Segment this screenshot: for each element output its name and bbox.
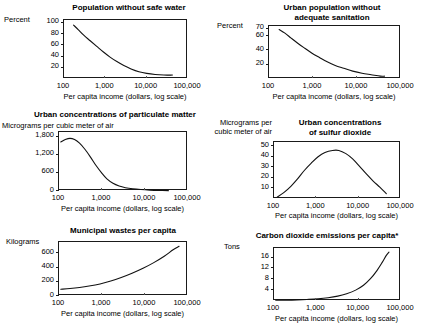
y-tick-mark [271, 177, 274, 178]
x-tick-mark [101, 188, 102, 190]
y-tick-label: 60 [226, 31, 264, 39]
chart-panel-carbon-dioxide-emissions-per-capita: Carbon dioxide emissions per capita* Ton… [213, 222, 427, 331]
chart-title: Population without safe water [49, 3, 209, 13]
x-tick-label: 100,000 [162, 82, 212, 90]
y-tick-mark [61, 22, 64, 23]
y-tick-label: 0 [16, 291, 54, 299]
x-axis-title: Per capita income (dollars, log scale) [273, 314, 400, 323]
y-tick-mark [271, 187, 274, 188]
y-tick-label: 16 [231, 252, 269, 260]
x-tick-label: 100,000 [375, 202, 425, 210]
y-tick-mark [56, 281, 59, 282]
y-tick-label: 100 [21, 17, 59, 25]
x-tick-mark [144, 293, 145, 295]
y-tick-label: 1,200 [16, 149, 54, 157]
y-tick-label: 70 [226, 23, 264, 31]
y-tick-mark [56, 172, 59, 173]
y-tick-mark [56, 136, 59, 137]
x-axis-title: Per capita income (dollars, log scale) [63, 92, 187, 101]
plot-area [63, 19, 187, 78]
curve-svg [274, 142, 401, 199]
y-tick-label: 8 [231, 274, 269, 282]
x-tick-label: 10,000 [331, 82, 381, 90]
chart-title: Urban concentrations of sulfur dioxide [275, 118, 405, 138]
y-tick-mark [271, 257, 274, 258]
plot-area [273, 141, 400, 198]
chart-title-line-1: Urban concentrations [299, 118, 382, 127]
y-tick-label: 12 [231, 263, 269, 271]
data-curve [74, 25, 173, 75]
chart-panel-municipal-wastes-per-capita: Municipal wastes per capita Kilograms 02… [0, 222, 214, 331]
y-tick-mark [271, 278, 274, 279]
y-tick-mark [61, 67, 64, 68]
y-tick-mark [61, 33, 64, 34]
x-tick-mark [144, 188, 145, 190]
x-tick-mark [315, 298, 316, 300]
y-axis-unit-label: Tons [224, 242, 240, 251]
data-curve [277, 150, 386, 197]
chart-title: Municipal wastes per capita [48, 226, 198, 236]
y-tick-label: 600 [16, 248, 54, 256]
y-axis-unit-line-2: cubic meter of air [214, 127, 272, 136]
x-tick-mark [315, 196, 316, 198]
y-tick-label: 400 [16, 262, 54, 270]
chart-panel-urban-concentrations-of-particulate-matter: Urban concentrations of particulate matt… [0, 110, 214, 222]
plot-area [58, 241, 187, 295]
y-tick-mark [266, 64, 269, 65]
curve-svg [269, 26, 401, 79]
y-tick-mark [271, 145, 274, 146]
y-tick-label: 60 [21, 40, 59, 48]
y-tick-label: 4 [231, 285, 269, 293]
y-tick-mark [271, 156, 274, 157]
x-tick-mark [101, 293, 102, 295]
x-tick-mark [358, 196, 359, 198]
y-tick-label: 40 [21, 51, 59, 59]
chart-title-line-2: adequate sanitation [294, 13, 369, 22]
y-tick-label: 40 [226, 45, 264, 53]
chart-title: Urban concentrations of particulate matt… [20, 110, 210, 120]
chart-title: Carbon dioxide emissions per capita* [237, 231, 417, 241]
x-axis-title: Per capita income (dollars, log scale) [58, 204, 187, 213]
y-tick-label: 40 [231, 151, 269, 159]
y-tick-label: 20 [231, 172, 269, 180]
x-axis-title: Per capita income (dollars, log scale) [268, 92, 400, 101]
x-tick-label: 100,000 [162, 299, 212, 307]
curve-svg [64, 20, 188, 79]
x-axis-title: Per capita income (dollars, log scale) [273, 211, 400, 220]
x-tick-mark [358, 298, 359, 300]
y-axis-unit-label: Micrograms per cubic meter of air [2, 121, 114, 130]
y-tick-label: 600 [16, 167, 54, 175]
x-tick-label: 100,000 [375, 304, 425, 312]
plot-area [58, 131, 187, 190]
y-tick-label: 30 [231, 162, 269, 170]
curve-svg [59, 242, 188, 296]
chart-panel-population-without-safe-water: Population without safe water Percent 20… [0, 0, 214, 110]
data-curve [61, 246, 179, 289]
y-tick-mark [56, 252, 59, 253]
x-tick-mark [146, 76, 147, 78]
x-axis-title: Per capita income (dollars, log scale) [58, 309, 187, 318]
y-tick-label: 20 [226, 59, 264, 67]
plot-area [268, 25, 400, 78]
y-tick-mark [56, 295, 59, 296]
plot-area [273, 247, 400, 300]
y-tick-label: 200 [16, 276, 54, 284]
chart-panel-urban-population-without-adequate-sanitation: Urban population without adequate sanita… [213, 0, 427, 110]
x-tick-label: 100,000 [162, 194, 212, 202]
y-tick-mark [271, 267, 274, 268]
curve-svg [274, 248, 401, 301]
y-tick-mark [266, 35, 269, 36]
y-tick-label: 80 [21, 29, 59, 37]
y-tick-label: 50 [231, 141, 269, 149]
y-tick-mark [56, 190, 59, 191]
y-tick-mark [61, 56, 64, 57]
data-curve [61, 138, 169, 190]
y-tick-mark [56, 267, 59, 268]
x-tick-label: 1,000 [287, 82, 337, 90]
x-tick-label: 100 [243, 82, 293, 90]
curve-svg [59, 132, 188, 191]
y-axis-unit-label: Micrograms per cubic meter of air [213, 118, 272, 136]
y-tick-mark [271, 166, 274, 167]
chart-title: Urban population without adequate sanita… [257, 3, 407, 23]
x-tick-mark [356, 76, 357, 78]
